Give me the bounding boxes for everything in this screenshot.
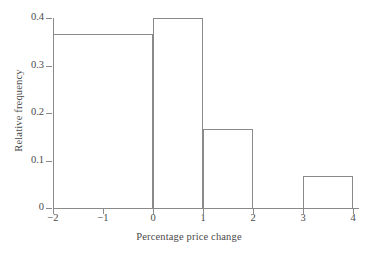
- x-axis-title: Percentage price change: [0, 231, 378, 242]
- y-tick-label: 0.2: [31, 107, 44, 117]
- x-tick-label: 4: [338, 212, 368, 224]
- histogram-figure: −2−101234 00.10.20.30.4 Percentage price…: [0, 0, 378, 254]
- y-tick-label: 0: [39, 202, 44, 212]
- y-tick: [46, 161, 52, 162]
- x-axis-line: [53, 208, 359, 209]
- x-tick-label: −2: [38, 212, 68, 224]
- y-tick-label: 0.1: [31, 155, 44, 165]
- histogram-bar: [203, 129, 253, 208]
- y-tick: [46, 18, 52, 19]
- x-tick-label: 3: [288, 212, 318, 224]
- histogram-bar: [53, 34, 153, 208]
- x-tick-label: 2: [238, 212, 268, 224]
- y-tick-label: 0.3: [31, 60, 44, 70]
- x-tick-label: 1: [188, 212, 218, 224]
- y-tick: [46, 208, 52, 209]
- x-tick-label: 0: [138, 212, 168, 224]
- y-axis-title: Relative frequency: [13, 31, 24, 191]
- y-tick: [46, 113, 52, 114]
- y-tick-label: 0.4: [31, 12, 44, 22]
- histogram-bar: [303, 176, 353, 208]
- y-tick: [46, 66, 52, 67]
- x-tick-label: −1: [88, 212, 118, 224]
- y-axis-line: [53, 18, 54, 208]
- histogram-bar: [153, 18, 203, 208]
